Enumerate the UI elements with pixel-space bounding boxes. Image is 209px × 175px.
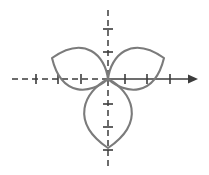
x-axis-arrowhead-icon — [188, 74, 198, 83]
figure-canvas: Three-petaled polar rose curve — [0, 0, 209, 175]
polar-rose-figure: Three-petaled polar rose curve — [0, 0, 209, 175]
axis-tick-marks — [36, 29, 170, 150]
